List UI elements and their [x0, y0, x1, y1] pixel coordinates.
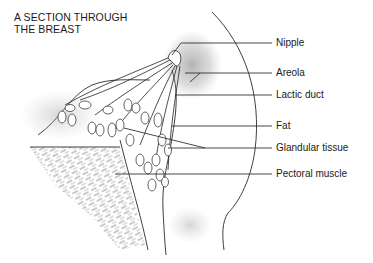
label-areola: Areola: [276, 67, 305, 79]
label-fat: Fat: [276, 120, 290, 132]
lower-shading: [168, 207, 212, 243]
label-lactic-duct: Lactic duct: [276, 89, 324, 101]
pectoral-muscle-region: [30, 147, 145, 250]
breast-section-illustration: [0, 0, 373, 263]
label-nipple: Nipple: [276, 37, 304, 49]
label-pectoral-muscle: Pectoral muscle: [276, 168, 347, 180]
label-glandular-tissue: Glandular tissue: [276, 142, 348, 154]
